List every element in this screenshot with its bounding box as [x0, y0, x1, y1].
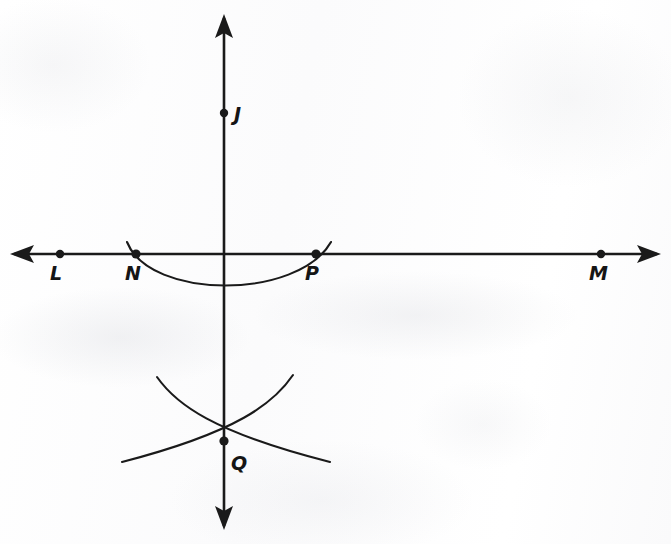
point-dot-J — [220, 109, 228, 117]
construction-figure — [0, 0, 671, 544]
point-label-J: J — [234, 103, 241, 125]
arc-from-upper-left — [157, 377, 330, 462]
point-dot-N — [131, 249, 140, 258]
point-label-N: N — [125, 262, 141, 284]
geometry-diagram-canvas: J L N P M Q — [0, 0, 671, 544]
point-label-M: M — [589, 262, 608, 284]
point-dot-M — [597, 250, 605, 258]
point-label-P: P — [305, 262, 319, 284]
point-label-L: L — [50, 262, 62, 284]
point-dot-Q — [219, 436, 228, 445]
arc-through-N-and-P — [127, 242, 331, 286]
point-dot-P — [311, 249, 320, 258]
point-label-Q: Q — [231, 452, 247, 474]
point-dot-L — [56, 250, 64, 258]
horizontal-line-LM — [10, 245, 661, 263]
